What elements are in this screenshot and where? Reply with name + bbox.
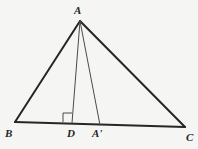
right-angle-icon [63, 113, 72, 122]
altitude-AD-line [72, 21, 80, 123]
vertex-label-D: D [67, 128, 75, 139]
vertex-label-A: A [74, 5, 81, 16]
side-AB-line [15, 21, 80, 122]
cevian-AAprime-line [80, 21, 100, 125]
side-AC-line [80, 21, 185, 127]
vertex-label-A-prime: A' [92, 128, 102, 139]
vertex-label-C: C [186, 132, 193, 143]
vertex-label-B: B [5, 128, 12, 139]
geometry-figure: A B C D A' [0, 0, 198, 149]
